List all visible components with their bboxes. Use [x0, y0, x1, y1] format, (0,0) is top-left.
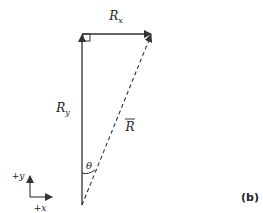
x-axis-label: +x: [34, 203, 47, 213]
rx-label: R: [108, 9, 118, 23]
rx-subscript: x: [118, 16, 123, 25]
ry-subscript: y: [64, 108, 70, 117]
vector-diagram: Rx Ry R θ +x +y (b): [0, 0, 263, 213]
ry-label: R: [55, 101, 65, 115]
svg-text:Ry: Ry: [55, 101, 70, 117]
theta-label: θ: [86, 160, 92, 171]
resultant-vector: [82, 35, 151, 205]
panel-label: (b): [241, 191, 259, 204]
resultant-label: R: [124, 120, 134, 134]
y-axis-label: +y: [12, 171, 26, 181]
svg-text:Rx: Rx: [108, 9, 123, 25]
right-angle-marker: [83, 34, 90, 41]
